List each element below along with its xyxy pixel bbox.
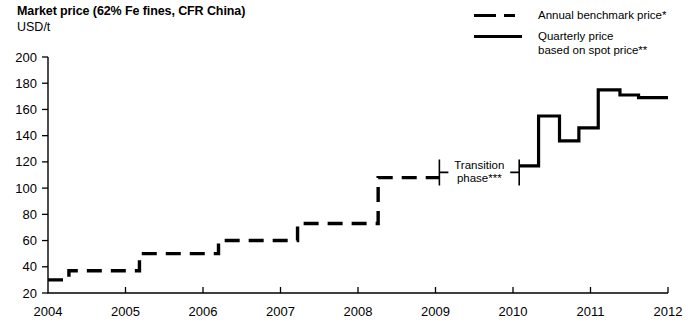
y-tick-40: 40 (23, 259, 37, 274)
market-price-chart: Market price (62% Fe fines, CFR China) U… (0, 0, 688, 327)
y-tick-120: 120 (15, 154, 37, 169)
transition-phase-annotation: Transitionphase*** (439, 159, 519, 185)
y-tick-80: 80 (23, 207, 37, 222)
y-tick-100: 100 (15, 181, 37, 196)
transition-end-bracket (510, 159, 519, 185)
y-axis-tick-labels: 20406080100120140160180200 (15, 50, 37, 301)
y-tick-60: 60 (23, 233, 37, 248)
chart-axes (42, 57, 668, 293)
chart-plot-area: 20406080100120140160180200 2004200520062… (0, 0, 688, 327)
y-tick-160: 160 (15, 102, 37, 117)
y-tick-180: 180 (15, 76, 37, 91)
y-tick-140: 140 (15, 128, 37, 143)
y-tick-20: 20 (23, 286, 37, 301)
transition-phase-label: Transitionphase*** (454, 159, 504, 184)
x-tick-2004: 2004 (34, 304, 63, 319)
y-tick-200: 200 (15, 50, 37, 65)
transition-start-bracket (439, 159, 448, 185)
series-quarterly-spot (519, 90, 668, 166)
x-tick-2012: 2012 (654, 304, 683, 319)
x-axis-tick-labels: 200420052006200720082009201020112012 (34, 304, 683, 319)
x-tick-2006: 2006 (189, 304, 218, 319)
chart-series (48, 90, 668, 280)
x-tick-2010: 2010 (499, 304, 528, 319)
x-tick-2005: 2005 (111, 304, 140, 319)
x-tick-2009: 2009 (421, 304, 450, 319)
x-tick-2008: 2008 (344, 304, 373, 319)
x-tick-2011: 2011 (577, 304, 605, 319)
series-annual-benchmark (48, 178, 439, 280)
x-tick-2007: 2007 (266, 304, 295, 319)
